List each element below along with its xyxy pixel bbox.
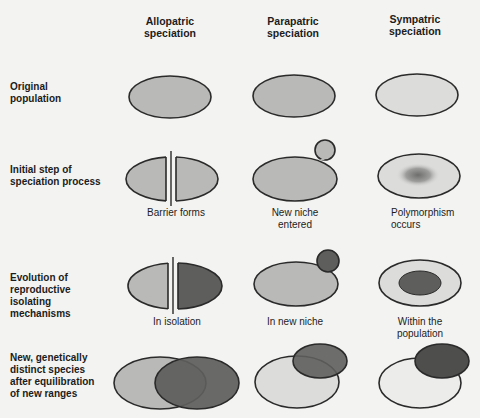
caption-in-new-niche: In new niche <box>240 316 350 328</box>
allopatric-barrier-forms <box>126 151 218 206</box>
caption-line: population <box>365 328 475 340</box>
caption-polymorphism-occurs: Polymorphism occurs <box>358 207 480 231</box>
sympatric-original-population <box>376 74 458 116</box>
caption-line: occurs <box>391 219 480 231</box>
caption-within-population: Within the population <box>365 316 475 340</box>
parapatric-original-population <box>253 75 335 117</box>
caption-line: entered <box>240 219 350 231</box>
allopatric-new-species <box>114 357 239 409</box>
caption-line: Polymorphism <box>391 207 480 219</box>
caption-barrier-forms: Barrier forms <box>121 207 231 219</box>
polymorphism-blob <box>396 163 440 187</box>
parapatric-new-niche-entered <box>253 140 337 201</box>
parapatric-in-new-niche <box>254 250 339 306</box>
caption-new-niche-entered: New niche entered <box>240 207 350 231</box>
sympatric-new-species <box>379 344 469 408</box>
sympatric-polymorphism-occurs <box>378 154 460 198</box>
allopatric-in-isolation <box>128 257 222 314</box>
caption-in-isolation: In isolation <box>122 316 232 328</box>
allopatric-original-population <box>129 76 211 118</box>
caption-line: Within the <box>365 316 475 328</box>
sympatric-within-population <box>379 260 461 306</box>
parapatric-new-species <box>255 344 347 408</box>
caption-line: New niche <box>240 207 350 219</box>
